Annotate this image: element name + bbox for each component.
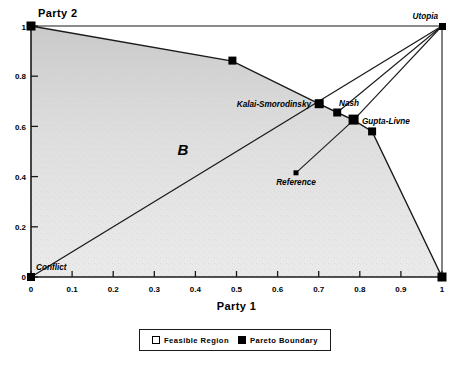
x-tick-label: 0.6	[272, 285, 284, 294]
x-tick-label: 0.2	[108, 285, 120, 294]
y-tick-label: 0	[22, 273, 27, 282]
y-tick-label: 0.6	[15, 123, 27, 132]
label-reference: Reference	[276, 178, 316, 187]
chart-figure: 0 0.2 0.4 0.6 0.8 1 0 0.1 0.2 0.3 0.4 0.…	[0, 0, 469, 366]
x-tick-label: 1	[440, 285, 445, 294]
utopia-ray-gupta-livne	[354, 26, 442, 120]
x-tick-label: 0.7	[313, 285, 325, 294]
marker-point-0.83-0.58	[368, 127, 376, 135]
y-axis-title: Party 2	[38, 7, 78, 19]
x-tick-label: 0.1	[67, 285, 79, 294]
x-tick-label: 0.4	[190, 285, 202, 294]
marker-point-reference	[294, 170, 299, 175]
marker-point-nash	[333, 109, 341, 117]
marker-point-1-0	[438, 273, 447, 282]
y-tick-label: 1	[22, 23, 27, 32]
label-utopia: Utopia	[413, 12, 439, 21]
marker-point-kalai-smorodinsky	[315, 99, 324, 108]
marker-point-0.49-0.86	[228, 57, 236, 65]
marker-point-gupta-livne-junction	[349, 115, 359, 125]
label-gupta-livne: Gupta-Livne	[362, 117, 410, 126]
x-axis-title: Party 1	[217, 300, 257, 312]
chart-legend: Feasible Region Pareto Boundary	[139, 329, 331, 351]
open-square-icon	[152, 336, 160, 344]
marker-point-0-1	[27, 22, 36, 31]
label-region-b: B	[178, 141, 189, 158]
filled-square-icon	[238, 336, 246, 344]
legend-label-feasible-region: Feasible Region	[164, 336, 229, 345]
label-conflict: Conflict	[36, 263, 67, 272]
x-tick-label: 0.5	[231, 285, 243, 294]
marker-point-utopia	[439, 23, 446, 30]
label-nash: Nash	[339, 99, 359, 108]
y-tick-label: 0.4	[15, 173, 27, 182]
marker-point-conflict	[27, 273, 35, 281]
x-tick-label: 0.9	[395, 285, 407, 294]
chart-plot-area: 0 0.2 0.4 0.6 0.8 1 0 0.1 0.2 0.3 0.4 0.…	[0, 0, 469, 366]
legend-label-pareto-boundary: Pareto Boundary	[250, 336, 318, 345]
legend-entry-pareto-boundary: Pareto Boundary	[238, 336, 318, 345]
x-tick-labels: 0 0.1 0.2 0.3 0.4 0.5 0.6 0.7 0.8 0.9 1	[29, 285, 445, 294]
x-tick-label: 0	[29, 285, 34, 294]
y-tick-label: 0.2	[15, 223, 27, 232]
x-tick-label: 0.8	[354, 285, 366, 294]
label-kalai-smorodinsky: Kalai-Smorodinsky	[237, 100, 312, 109]
x-tick-label: 0.3	[149, 285, 161, 294]
y-tick-labels: 0 0.2 0.4 0.6 0.8 1	[15, 23, 27, 283]
y-tick-label: 0.8	[15, 72, 27, 81]
legend-entry-feasible-region: Feasible Region	[152, 336, 229, 345]
